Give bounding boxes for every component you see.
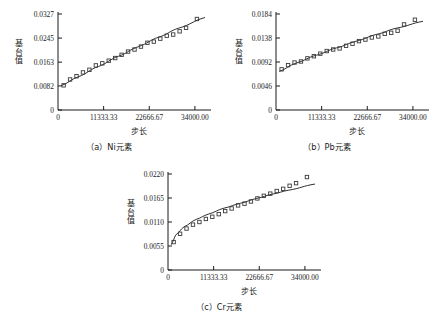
y-axis-label-pb: 基台值: [234, 40, 244, 66]
y-tick-label: 0.0184: [252, 10, 273, 19]
data-point-marker: [223, 209, 226, 212]
x-tick-label: 11333.33: [308, 113, 336, 122]
data-point-marker: [305, 175, 308, 178]
subplot-pb: 基台值 00.00460.00920.01380.0184011333.3322…: [218, 0, 436, 158]
subplot-caption-cr: （c）Cr元素: [110, 300, 328, 312]
figure-root: 基台值 00.00820.01630.02450.0327011333.3322…: [0, 0, 436, 318]
x-tick-label: 22666.67: [135, 113, 163, 122]
data-point-marker: [191, 223, 194, 226]
data-point-marker: [288, 184, 291, 187]
y-tick-label: 0.0110: [144, 218, 164, 227]
data-point-marker: [198, 220, 201, 223]
y-axis-label-char: 值: [14, 57, 24, 66]
data-point-marker: [389, 31, 392, 34]
data-point-marker: [413, 18, 416, 21]
y-axis-label-ni: 基台值: [14, 40, 24, 66]
data-point-marker: [185, 227, 188, 230]
y-tick-label: 0.0046: [252, 82, 273, 91]
y-tick-label: 0.0092: [252, 58, 273, 67]
y-tick-label: 0.0327: [34, 10, 55, 19]
y-tick-label: 0.0082: [34, 82, 55, 91]
data-point-marker: [230, 207, 233, 210]
x-tick-label: 0: [56, 113, 60, 122]
subplot-ni: 基台值 00.00820.01630.02450.0327011333.3322…: [0, 0, 218, 158]
data-point-marker: [275, 189, 278, 192]
data-point-marker: [217, 212, 220, 215]
data-point-marker: [294, 181, 297, 184]
x-tick-label: 34000.00: [291, 273, 319, 282]
data-point-marker: [377, 35, 380, 38]
y-tick-label: 0.0138: [252, 34, 273, 43]
data-point-marker: [402, 23, 405, 26]
x-tick-label: 34000.00: [181, 113, 209, 122]
data-point-marker: [396, 29, 399, 32]
data-point-marker: [281, 187, 284, 190]
plot-area-ni: 00.00820.01630.02450.0327011333.3322666.…: [0, 0, 218, 140]
plot-area-cr: 00.00550.01100.01650.0220011333.3322666.…: [110, 160, 328, 300]
data-point-marker: [152, 40, 155, 43]
subplot-caption-pb: （b）Pb元素: [218, 140, 436, 152]
y-tick-label: 0.0220: [144, 170, 165, 179]
y-axis-label-char: 值: [234, 57, 244, 66]
data-point-marker: [178, 30, 181, 33]
y-tick-label: 0.0165: [144, 194, 165, 203]
x-axis-label: 步长: [241, 286, 257, 296]
y-axis-label-char: 值: [126, 217, 136, 226]
fitted-curve: [279, 21, 423, 71]
subplot-cr: 基台值 00.00550.01100.01650.0220011333.3322…: [110, 160, 328, 318]
x-tick-label: 11333.33: [90, 113, 118, 122]
subplot-caption-ni: （a）Ni元素: [0, 140, 218, 152]
axis-spines: [168, 172, 321, 270]
data-point-marker: [211, 215, 214, 218]
plot-area-pb: 00.00460.00920.01380.0184011333.3322666.…: [218, 0, 436, 140]
y-tick-label: 0: [160, 266, 164, 275]
y-tick-label: 0.0055: [144, 242, 165, 251]
fitted-curve: [171, 184, 315, 245]
data-point-marker: [171, 33, 174, 36]
x-tick-label: 22666.67: [245, 273, 273, 282]
x-axis-label: 步长: [349, 126, 365, 136]
y-axis-label-cr: 基台值: [126, 200, 136, 226]
data-point-marker: [204, 217, 207, 220]
x-tick-label: 34000.00: [399, 113, 427, 122]
y-tick-label: 0.0245: [34, 34, 55, 43]
x-tick-label: 11333.33: [200, 273, 228, 282]
y-tick-label: 0.0163: [34, 58, 55, 67]
x-tick-label: 0: [166, 273, 170, 282]
x-tick-label: 0: [274, 113, 278, 122]
data-point-marker: [184, 26, 187, 29]
x-axis-label: 步长: [131, 126, 147, 136]
y-tick-label: 0: [50, 106, 54, 115]
y-tick-label: 0: [268, 106, 272, 115]
x-tick-label: 22666.67: [353, 113, 381, 122]
